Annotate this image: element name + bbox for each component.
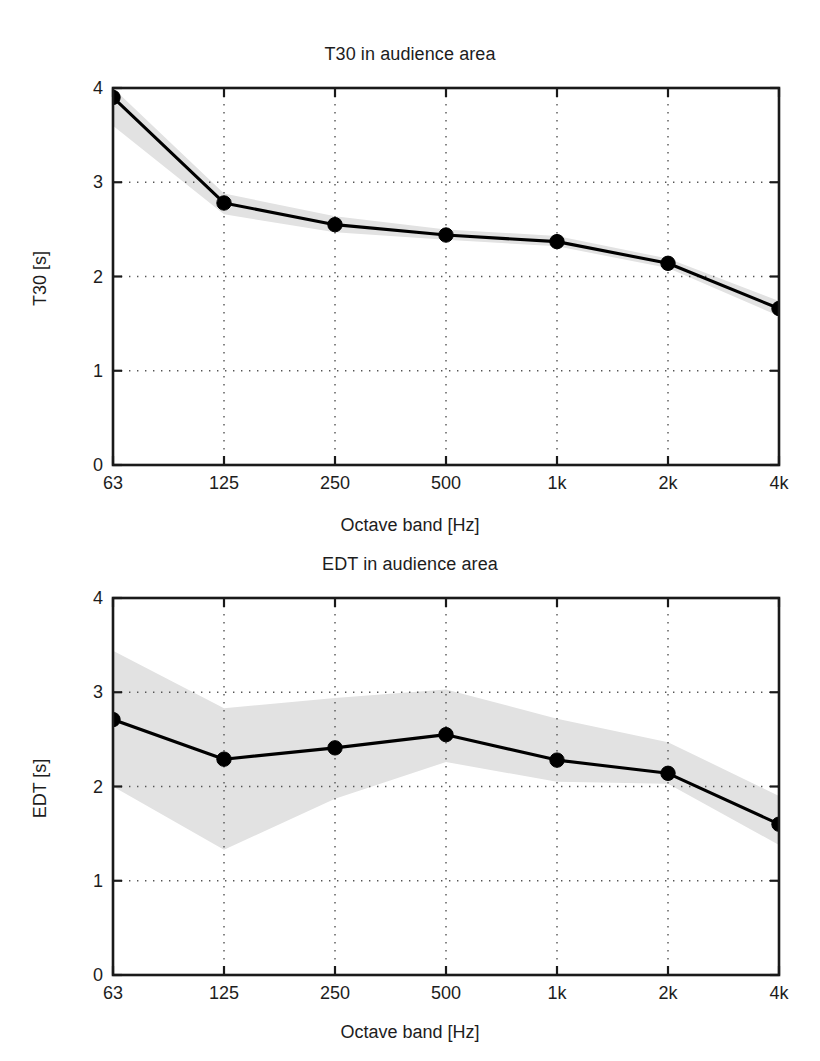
chart-panel-t30: T30 in audience area T30 [s] Octave band… [0, 0, 820, 552]
figure-container: T30 in audience area T30 [s] Octave band… [0, 0, 820, 1061]
chart-panel-edt: EDT in audience area EDT [s] Octave band… [0, 510, 820, 1061]
plot-area-t30 [0, 0, 820, 552]
plot-area-edt [0, 510, 820, 1061]
